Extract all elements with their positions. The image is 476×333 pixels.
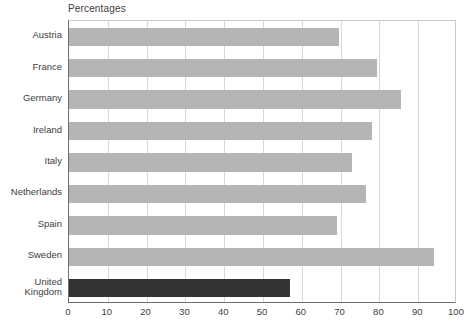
category-label: United Kingdom	[0, 277, 62, 298]
value-tick-label: 30	[179, 306, 190, 317]
bar-row	[69, 28, 455, 46]
value-tick-label: 0	[65, 306, 70, 317]
value-tick-label: 90	[412, 306, 423, 317]
bar-row	[69, 279, 455, 297]
category-axis-labels: AustriaFranceGermanyIrelandItalyNetherla…	[0, 20, 62, 303]
value-tick-label: 50	[257, 306, 268, 317]
bar	[69, 279, 290, 297]
bar-row	[69, 122, 455, 140]
chart-title: Percentages	[68, 3, 126, 14]
bar-row	[69, 90, 455, 108]
bar-chart: Percentages AustriaFranceGermanyIrelandI…	[0, 0, 476, 333]
category-label: Austria	[0, 30, 62, 41]
bar-row	[69, 59, 455, 77]
value-tick-label: 70	[334, 306, 345, 317]
bar	[69, 59, 377, 77]
value-tick-label: 100	[448, 306, 464, 317]
bar	[69, 90, 401, 108]
bar-row	[69, 216, 455, 234]
bar	[69, 28, 339, 46]
bar	[69, 216, 337, 234]
bar-row	[69, 153, 455, 171]
bar-row	[69, 185, 455, 203]
category-label: Spain	[0, 219, 62, 230]
value-axis-labels: 0102030405060708090100	[68, 306, 456, 322]
value-tick-label: 40	[218, 306, 229, 317]
value-tick-label: 60	[296, 306, 307, 317]
category-label: Netherlands	[0, 187, 62, 198]
bar	[69, 153, 352, 171]
bar-row	[69, 248, 455, 266]
bars-layer	[69, 21, 455, 302]
bar	[69, 122, 372, 140]
value-tick-label: 10	[102, 306, 113, 317]
category-label: Italy	[0, 156, 62, 167]
category-label: Ireland	[0, 125, 62, 136]
category-label: France	[0, 62, 62, 73]
bar	[69, 185, 366, 203]
value-tick-label: 80	[373, 306, 384, 317]
value-tick-label: 20	[140, 306, 151, 317]
category-label: Germany	[0, 93, 62, 104]
category-label: Sweden	[0, 250, 62, 261]
bar	[69, 248, 434, 266]
plot-area	[68, 20, 456, 303]
